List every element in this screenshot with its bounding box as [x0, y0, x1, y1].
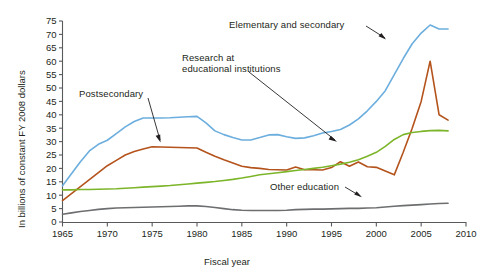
y-tick-label: 45 [46, 96, 57, 107]
y-tick-label: 15 [46, 176, 57, 187]
x-tick-label: 1990 [276, 228, 297, 239]
y-tick-label: 5 [51, 203, 56, 214]
leader-line-postsecondary [148, 98, 160, 140]
annotation-elementary-and-secondary: Elementary and secondary [229, 19, 344, 30]
leader-line-research [249, 72, 335, 140]
arrowhead-postsecondary [156, 135, 161, 143]
y-tick-label: 20 [46, 163, 57, 174]
series-line-other-education [63, 203, 449, 214]
x-tick-label: 1965 [52, 228, 73, 239]
annotation-other-education: Other education [270, 181, 339, 192]
annotation-postsecondary: Postsecondary [79, 88, 143, 99]
y-tick-label: 10 [46, 190, 57, 201]
chart-plot-area: 051015202530354045505560657075 196519701… [0, 0, 482, 276]
y-tick-label: 55 [46, 69, 57, 80]
y-tick-label: 40 [46, 109, 57, 120]
arrowhead-other [354, 191, 362, 197]
x-tick-label: 1985 [231, 228, 252, 239]
y-tick-label: 70 [46, 29, 57, 40]
x-axis-ticks: 1965197019751980198519901995200020052010 [52, 222, 477, 239]
y-axis-ticks: 051015202530354045505560657075 [46, 15, 63, 227]
y-tick-label: 30 [46, 136, 57, 147]
line-chart: 051015202530354045505560657075 196519701… [0, 0, 482, 276]
x-tick-label: 2000 [366, 228, 387, 239]
y-tick-label: 75 [46, 15, 57, 26]
y-axis-title: In billions of constant FY 2008 dollars [16, 70, 27, 228]
arrowhead-research [329, 136, 337, 142]
x-tick-label: 1975 [142, 228, 163, 239]
x-axis-title: Fiscal year [204, 256, 250, 267]
annotation-research-line-2: educational institutions [182, 63, 281, 74]
x-tick-label: 1980 [186, 228, 207, 239]
y-tick-label: 50 [46, 82, 57, 93]
arrowhead-elementary [379, 33, 387, 40]
x-tick-label: 1970 [97, 228, 118, 239]
series-line-elementary-and-secondary [63, 25, 449, 186]
x-tick-label: 2005 [411, 228, 432, 239]
y-tick-label: 65 [46, 42, 57, 53]
x-tick-label: 1995 [321, 228, 342, 239]
y-tick-label: 0 [51, 216, 56, 227]
x-tick-label: 2010 [455, 228, 476, 239]
y-tick-label: 35 [46, 123, 57, 134]
annotation-research-line-1: Research at [182, 52, 281, 63]
annotation-research-at-educational-institutions: Research at educational institutions [182, 52, 281, 74]
y-tick-label: 60 [46, 56, 57, 67]
y-tick-label: 25 [46, 149, 57, 160]
